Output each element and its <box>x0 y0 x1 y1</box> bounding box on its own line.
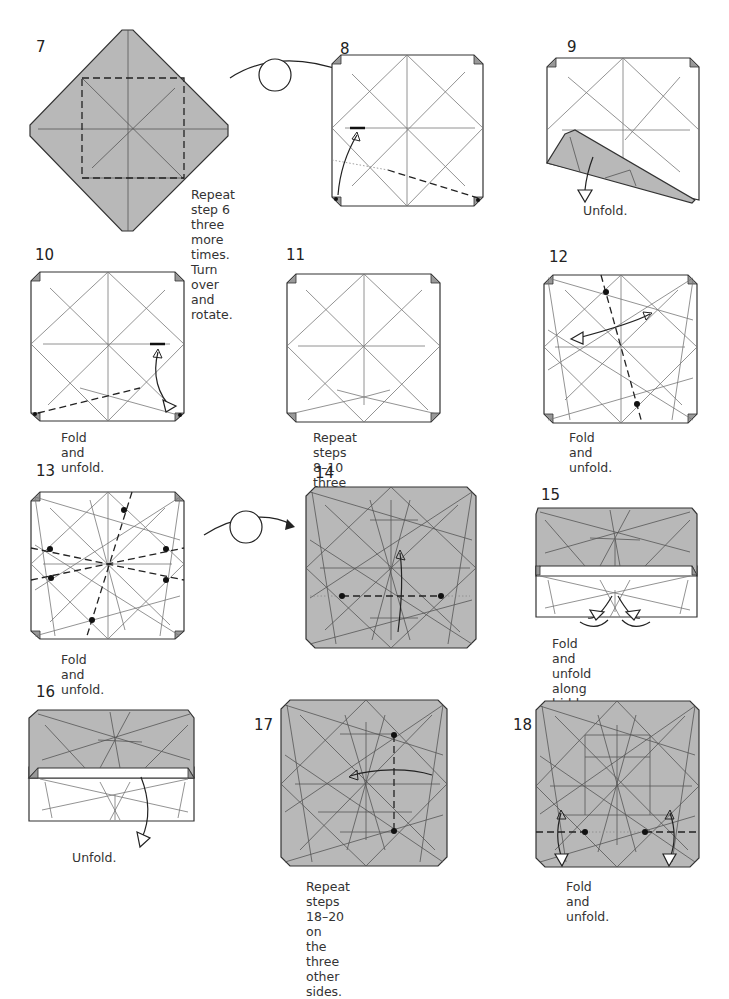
step-caption: Fold and unfold. <box>566 879 609 924</box>
